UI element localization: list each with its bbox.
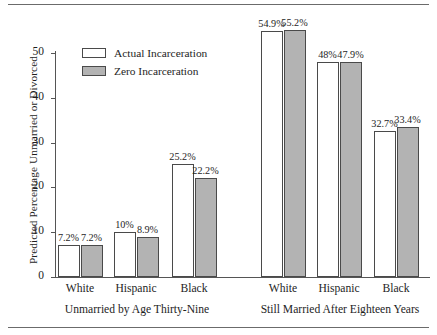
category-label-white-0: White [66,282,94,295]
bar-actual-hispanic-1 [114,232,136,277]
bar-zero-black-5 [397,127,419,277]
category-label-white-3: White [269,282,297,295]
y-tick-label: 20 [0,179,44,191]
category-label-hispanic-1: Hispanic [115,282,156,295]
category-label-hispanic-4: Hispanic [318,282,359,295]
bar-value-label: 47.9% [331,49,371,60]
bar-actual-hispanic-4 [317,62,339,277]
y-tick-label: 40 [0,90,44,102]
bar-value-label: 7.2% [72,232,112,243]
legend-item-actual-incarceration: Actual Incarceration [82,45,207,60]
bar-actual-white-0 [58,245,80,277]
bar-value-label: 8.9% [128,224,168,235]
y-tick-label: 10 [0,224,44,236]
bar-actual-black-2 [172,164,194,277]
bar-actual-white-3 [261,31,283,277]
y-tick-label: 50 [0,45,44,57]
bar-value-label: 55.2% [275,17,315,28]
bar-zero-white-3 [284,30,306,277]
category-label-black-2: Black [180,282,207,295]
bar-chart-figure: Predicted Percentage Unmarried or Divorc… [0,0,437,335]
legend-item-zero-incarceration: Zero Incarceration [82,63,207,78]
bar-value-label: 22.2% [186,165,226,176]
legend-label-actual-incarceration: Actual Incarceration [114,47,207,59]
bar-value-label: 25.2% [163,151,203,162]
category-label-black-5: Black [382,282,409,295]
panel-label-1: Still Married After Eighteen Years [261,303,420,316]
panel-label-0: Unmarried by Age Thirty-Nine [65,303,209,316]
bar-zero-black-2 [195,178,217,277]
bar-value-label: 33.4% [388,114,428,125]
bar-zero-hispanic-4 [340,62,362,277]
y-tick-label: 0 [0,269,44,281]
bar-actual-black-5 [374,131,396,277]
chart-legend: Actual Incarceration Zero Incarceration [82,45,207,81]
bar-zero-white-0 [81,245,103,277]
top-horizontal-rule [8,4,429,5]
y-tick-label: 30 [0,135,44,147]
bar-zero-hispanic-1 [137,237,159,277]
legend-swatch-actual-incarceration [82,48,106,58]
legend-swatch-zero-incarceration [82,66,106,76]
legend-label-zero-incarceration: Zero Incarceration [114,65,198,77]
y-axis-title: Predicted Percentage Unmarried or Divorc… [27,35,39,285]
bottom-horizontal-rule [8,327,429,328]
plot-area: 7.2%7.2%10%8.9%25.2%22.2%54.9%55.2%48%47… [56,50,430,278]
